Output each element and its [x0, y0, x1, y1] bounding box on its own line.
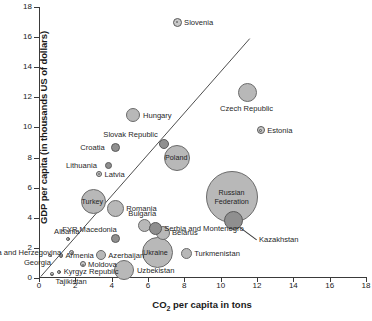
x-axis-title: CO2 per capita in tons — [39, 299, 365, 312]
point-label-kazakhstan: Kazakhstan — [259, 235, 299, 244]
y-tick-label-10: 10 — [16, 122, 32, 131]
point-label-ukraine: Ukraine — [143, 248, 168, 257]
bubble-chart: GDP per capita (in thousands US of dolla… — [0, 0, 372, 321]
x-tick-label-4: 4 — [104, 281, 120, 290]
point-label-bosnia-and-herzegovina: Bosnia and Herzegovina — [0, 248, 61, 257]
x-axis-title-main: CO — [152, 299, 166, 310]
point-label-armenia: Armenia — [66, 251, 94, 260]
y-tick-label-16: 16 — [16, 32, 32, 41]
point-label-turkmenistan: Turkmenistan — [194, 249, 240, 258]
x-tick-label-6: 6 — [140, 281, 156, 290]
x-axis-title-rest: per capita in tons — [170, 299, 251, 310]
y-tick-label-0: 0 — [16, 273, 32, 282]
bubble-latvia[interactable] — [96, 171, 102, 177]
point-label-georgia: Georgia — [24, 258, 51, 267]
plot-area: TajikistanGeorgiaKyrgyz RepublicArmeniaA… — [39, 7, 366, 278]
point-label-hungary: Hungary — [143, 111, 172, 120]
point-label-belarus: Belarus — [172, 228, 198, 237]
bubble-lithuania[interactable] — [105, 162, 112, 169]
bubble-tajikistan[interactable] — [50, 272, 54, 276]
y-tick-label-6: 6 — [16, 183, 32, 192]
point-label-moldova: Moldova — [88, 260, 117, 269]
point-label-croatia: Croatia — [80, 143, 104, 152]
x-tick-label-8: 8 — [176, 281, 192, 290]
y-tick-label-8: 8 — [16, 153, 32, 162]
x-tick-label-16: 16 — [322, 281, 338, 290]
x-tick-label-18: 18 — [358, 281, 372, 290]
point-label-lithuania: Lithuania — [66, 161, 97, 170]
point-label-poland: Poland — [165, 153, 187, 162]
point-label-tajikistan: Tajikistan — [56, 277, 87, 286]
point-label-slovak-republic: Slovak Republic — [103, 130, 157, 139]
point-label-romania: Romania — [126, 204, 156, 213]
y-tick-label-12: 12 — [16, 92, 32, 101]
bubble-romania[interactable] — [107, 200, 124, 217]
x-tick-label-14: 14 — [285, 281, 301, 290]
point-label-estonia: Estonia — [267, 126, 292, 135]
bubble-croatia[interactable] — [111, 143, 120, 152]
y-tick-label-18: 18 — [16, 2, 32, 11]
point-label-fyr-macedonia: FYR Macedonia — [62, 225, 116, 234]
point-label-uzbekistan: Uzbekistan — [137, 266, 175, 275]
y-tick-label-14: 14 — [16, 62, 32, 71]
point-label-turkey: Turkey — [82, 197, 104, 206]
point-label-czech-republic: Czech Republic — [220, 104, 273, 113]
y-tick-label-4: 4 — [16, 213, 32, 222]
bubble-turkmenistan[interactable] — [181, 248, 192, 259]
point-label-slovenia: Slovenia — [184, 18, 213, 27]
point-label-azerbaijan: Azerbaijan — [108, 251, 144, 260]
x-tick-label-10: 10 — [213, 281, 229, 290]
bubble-serbia-and-montenegro[interactable] — [149, 222, 162, 235]
bubble-slovenia[interactable] — [173, 18, 182, 27]
point-label-russian-federation: Russian Federation — [207, 188, 257, 207]
point-label-latvia: Latvia — [104, 170, 124, 179]
x-tick-label-0: 0 — [31, 281, 47, 290]
x-tick-label-12: 12 — [249, 281, 265, 290]
